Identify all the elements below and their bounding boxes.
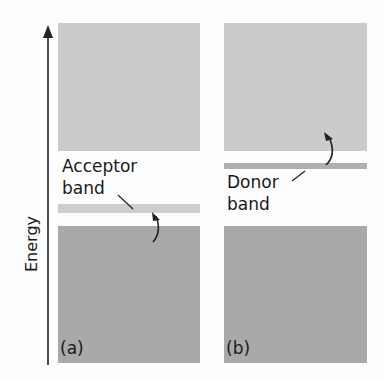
acceptor-leader-line: [118, 195, 133, 209]
annotations: [0, 0, 384, 380]
donor-leader-line: [292, 171, 305, 181]
donor-transition-arrow-icon: [326, 137, 332, 165]
